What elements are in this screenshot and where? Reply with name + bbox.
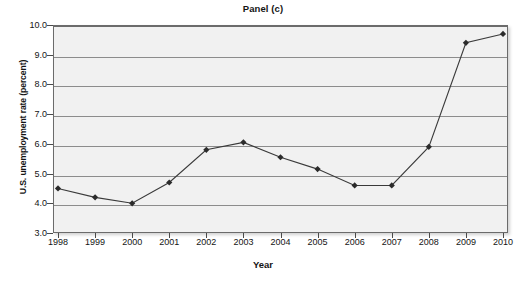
x-tick-mark	[281, 233, 282, 238]
y-tick-label: 8.0	[3, 79, 47, 89]
x-tick-label: 2010	[480, 237, 526, 247]
y-tick-label: 4.0	[3, 198, 47, 208]
chart-title: Panel (c)	[0, 3, 526, 14]
y-tick-label: 9.0	[3, 50, 47, 60]
y-tick-label: 10.0	[3, 20, 47, 30]
gridline	[54, 205, 507, 206]
y-tick-mark	[47, 233, 53, 234]
y-tick-label: 6.0	[3, 139, 47, 149]
y-tick-mark	[47, 144, 53, 145]
x-tick-mark	[355, 233, 356, 238]
x-tick-mark	[429, 233, 430, 238]
y-tick-mark	[47, 84, 53, 85]
gridline	[54, 176, 507, 177]
x-tick-mark	[58, 233, 59, 238]
gridline	[54, 86, 507, 87]
plot-area	[53, 25, 508, 233]
y-tick-mark	[47, 55, 53, 56]
gridline	[54, 146, 507, 147]
x-tick-mark	[95, 233, 96, 238]
gridline	[54, 116, 507, 117]
x-tick-mark	[132, 233, 133, 238]
x-tick-mark	[318, 233, 319, 238]
y-tick-mark	[47, 25, 53, 26]
y-tick-label: 7.0	[3, 109, 47, 119]
x-tick-mark	[206, 233, 207, 238]
y-tick-mark	[47, 203, 53, 204]
x-tick-mark	[169, 233, 170, 238]
gridline	[54, 57, 507, 58]
y-tick-mark	[47, 114, 53, 115]
x-tick-mark	[503, 233, 504, 238]
y-tick-label: 5.0	[3, 169, 47, 179]
chart-figure: Panel (c) U.S. unemployment rate (percen…	[0, 0, 526, 282]
x-axis-title: Year	[0, 259, 526, 270]
x-tick-mark	[392, 233, 393, 238]
x-tick-mark	[243, 233, 244, 238]
x-tick-mark	[466, 233, 467, 238]
y-tick-mark	[47, 174, 53, 175]
